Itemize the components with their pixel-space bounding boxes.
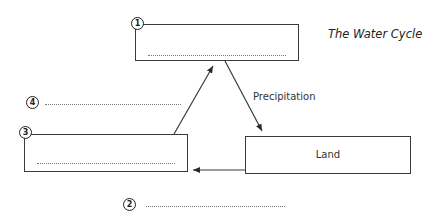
arrow-evaporation xyxy=(174,66,213,134)
diagram-title: The Water Cycle xyxy=(328,27,422,41)
number-badge-2: 2 xyxy=(123,198,136,211)
water-cycle-diagram: The Water Cycle 1 3 Land Precipitation 4… xyxy=(0,0,430,221)
blank-line-2[interactable] xyxy=(146,206,285,207)
blank-line-1[interactable] xyxy=(148,55,286,56)
box-3 xyxy=(24,134,188,172)
box-land: Land xyxy=(245,136,411,174)
box-1 xyxy=(135,24,299,61)
number-badge-1: 1 xyxy=(131,17,144,30)
land-label: Land xyxy=(246,149,410,160)
number-badge-3: 3 xyxy=(19,126,32,139)
precipitation-label: Precipitation xyxy=(253,91,316,102)
blank-line-4[interactable] xyxy=(45,104,181,105)
number-badge-4: 4 xyxy=(26,96,39,109)
blank-line-3[interactable] xyxy=(37,163,175,164)
